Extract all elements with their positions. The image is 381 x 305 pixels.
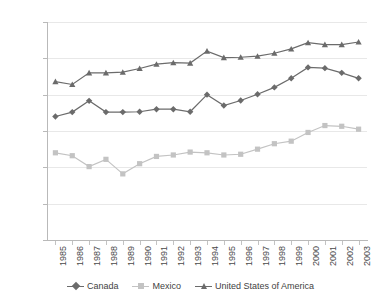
data-point-marker (53, 150, 58, 155)
legend-item-united-states-of-america[interactable]: United States of America (195, 281, 314, 291)
data-point-marker (204, 150, 209, 155)
data-point-marker (271, 84, 277, 90)
data-point-marker (289, 139, 294, 144)
data-point-marker (288, 75, 294, 81)
data-point-marker (103, 109, 109, 115)
data-point-marker (52, 113, 58, 119)
data-point-marker (87, 164, 92, 169)
legend-swatch-triangle-icon (195, 282, 212, 291)
data-point-marker (238, 152, 243, 157)
data-point-marker (255, 147, 260, 152)
data-point-marker (339, 124, 344, 129)
series-layer (0, 0, 381, 305)
line-chart: 12011010090807060 1985198619871988198919… (0, 0, 381, 305)
legend-swatch-square-icon (132, 282, 149, 291)
data-point-marker (272, 141, 277, 146)
data-point-marker (221, 152, 226, 157)
legend-swatch-diamond-icon (67, 282, 84, 291)
data-point-marker (322, 65, 328, 71)
chart-legend: CanadaMexicoUnited States of America (0, 281, 381, 291)
legend-label: United States of America (215, 281, 314, 291)
legend-item-mexico[interactable]: Mexico (132, 281, 181, 291)
data-point-marker (221, 102, 227, 108)
data-point-marker (120, 109, 126, 115)
legend-item-canada[interactable]: Canada (67, 281, 119, 291)
data-point-marker (254, 91, 260, 97)
data-point-marker (305, 64, 311, 70)
data-point-marker (86, 98, 92, 104)
series-line (55, 126, 358, 174)
legend-label: Canada (87, 281, 119, 291)
series-mexico (53, 123, 361, 177)
data-point-marker (103, 157, 108, 162)
data-point-marker (153, 106, 159, 112)
data-point-marker (322, 123, 327, 128)
data-point-marker (188, 149, 193, 154)
data-point-marker (237, 97, 243, 103)
data-point-marker (170, 106, 176, 112)
data-point-marker (204, 48, 210, 54)
data-point-marker (339, 70, 345, 76)
data-point-marker (305, 130, 310, 135)
data-point-marker (120, 171, 125, 176)
data-point-marker (355, 75, 361, 81)
data-point-marker (154, 154, 159, 159)
data-point-marker (171, 152, 176, 157)
data-point-marker (69, 109, 75, 115)
legend-label: Mexico (152, 281, 181, 291)
data-point-marker (70, 153, 75, 158)
data-point-marker (136, 109, 142, 115)
series-united-states-of-america (52, 39, 361, 87)
data-point-marker (137, 161, 142, 166)
data-point-marker (356, 127, 361, 132)
